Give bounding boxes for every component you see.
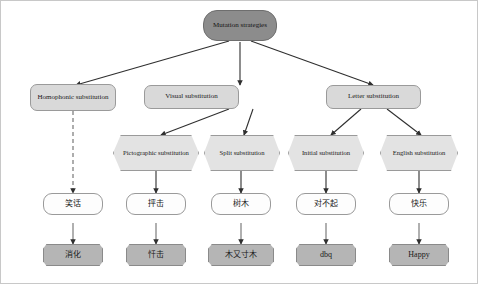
node-example-english[interactable]: 快乐 bbox=[389, 193, 449, 215]
node-example-split[interactable]: 树木 bbox=[211, 193, 271, 215]
node-example-pictographic[interactable]: 抨击 bbox=[126, 193, 186, 215]
node-english-substitution-label: English substitution bbox=[381, 149, 457, 156]
node-split-substitution-label: Split substitution bbox=[205, 149, 279, 156]
edge-root-homophonic bbox=[76, 41, 229, 85]
node-result-pictographic[interactable]: 忏击 bbox=[126, 244, 186, 266]
node-example-english-label: 快乐 bbox=[390, 200, 448, 209]
node-pictographic-substitution[interactable]: Pictographic substitution bbox=[113, 135, 199, 171]
node-result-split[interactable]: 木又寸木 bbox=[208, 244, 274, 266]
node-visual-substitution[interactable]: Visual substitution bbox=[144, 85, 239, 109]
node-example-pictographic-label: 抨击 bbox=[127, 200, 185, 209]
node-letter-substitution-label: Letter substitution bbox=[327, 93, 420, 101]
node-result-split-label: 木又寸木 bbox=[209, 251, 273, 260]
edge-root-letter bbox=[251, 41, 373, 85]
node-example-homophonic-label: 笑话 bbox=[44, 200, 102, 209]
node-result-initial[interactable]: dbq bbox=[296, 244, 356, 266]
node-visual-substitution-label: Visual substitution bbox=[145, 93, 238, 101]
node-root[interactable]: Mutation strategies bbox=[203, 10, 277, 41]
node-result-pictographic-label: 忏击 bbox=[127, 251, 185, 260]
node-homophonic-substitution-label: Homophonic substitution bbox=[31, 94, 115, 102]
edge-letter-initial bbox=[331, 109, 361, 135]
node-pictographic-substitution-label: Pictographic substitution bbox=[114, 149, 198, 156]
edge-letter-english bbox=[387, 109, 421, 135]
node-result-initial-label: dbq bbox=[297, 251, 355, 260]
node-english-substitution[interactable]: English substitution bbox=[380, 135, 458, 171]
node-example-initial-label: 对不起 bbox=[297, 200, 355, 209]
node-result-homophonic[interactable]: 消化 bbox=[43, 244, 103, 266]
node-result-homophonic-label: 消化 bbox=[44, 251, 102, 260]
node-result-english[interactable]: Happy bbox=[389, 244, 449, 266]
edge-visual-pictographic bbox=[161, 109, 229, 135]
node-result-english-label: Happy bbox=[390, 251, 448, 260]
node-example-initial[interactable]: 对不起 bbox=[296, 193, 356, 215]
node-root-label: Mutation strategies bbox=[204, 22, 276, 30]
node-initial-substitution-label: Initial substitution bbox=[289, 149, 363, 156]
node-letter-substitution[interactable]: Letter substitution bbox=[326, 85, 421, 109]
node-example-homophonic[interactable]: 笑话 bbox=[43, 193, 103, 215]
diagram-canvas: Mutation strategies Homophonic substitut… bbox=[0, 0, 478, 284]
node-split-substitution[interactable]: Split substitution bbox=[204, 135, 280, 171]
node-example-split-label: 树木 bbox=[212, 200, 270, 209]
node-initial-substitution[interactable]: Initial substitution bbox=[288, 135, 364, 171]
edge-visual-split bbox=[244, 109, 253, 135]
node-homophonic-substitution[interactable]: Homophonic substitution bbox=[30, 84, 116, 111]
